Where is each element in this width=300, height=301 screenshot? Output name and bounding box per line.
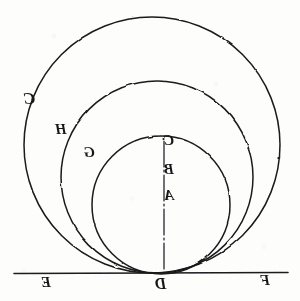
tangent-baseline [14,273,288,274]
label-circle-h: H [55,122,67,137]
geometry-drawing [0,0,300,301]
circle-outer-c [24,17,280,273]
figure-canvas: C H G C B A D E F [0,0,300,301]
label-circle-g: G [84,145,95,160]
label-baseline-right-f: F [260,273,270,288]
label-tangent-point-d: D [155,276,167,292]
label-axis-point-c: C [164,133,174,148]
circle-inner-g [92,136,230,274]
label-baseline-left-e: E [41,275,51,290]
label-axis-point-b: B [164,162,174,177]
label-circle-c: C [24,90,35,107]
label-axis-point-a: A [164,188,174,203]
